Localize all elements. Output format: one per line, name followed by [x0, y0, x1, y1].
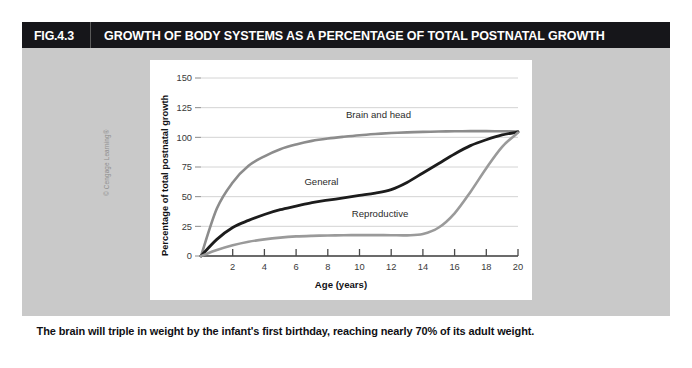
caption-strip: The brain will triple in weight by the i… — [22, 316, 670, 345]
series-label: General — [304, 176, 338, 187]
x-tick-label: 2 — [230, 262, 235, 272]
figure-number: FIG.4.3 — [22, 28, 79, 43]
y-axis-title: Percentage of total postnatal growth — [160, 95, 170, 256]
x-tick-label: 12 — [386, 262, 396, 272]
copyright-credit: © Cengage Learning® — [103, 96, 110, 196]
x-tick-label: 18 — [481, 262, 491, 272]
gridlines-group — [201, 78, 518, 226]
x-tick-label: 6 — [294, 262, 299, 272]
x-tick-label: 8 — [325, 262, 330, 272]
y-tick-label: 125 — [176, 103, 192, 113]
series-lines — [201, 131, 518, 256]
y-tick-label: 0 — [187, 251, 192, 261]
chart-panel: 0255075100125150 2468101214161820 Brain … — [150, 60, 532, 300]
y-axis-ticks: 0255075100125150 — [176, 73, 201, 261]
y-tick-label: 75 — [182, 162, 192, 172]
x-tick-label: 4 — [262, 262, 267, 272]
figure-caption: The brain will triple in weight by the i… — [22, 325, 534, 337]
series-label: Brain and head — [346, 109, 411, 120]
x-axis-title: Age (years) — [315, 279, 367, 290]
figure-header-bar: FIG.4.3 GROWTH OF BODY SYSTEMS AS A PERC… — [22, 22, 670, 48]
growth-line-chart: 0255075100125150 2468101214161820 Brain … — [150, 60, 532, 300]
y-tick-label: 100 — [176, 133, 192, 143]
y-tick-label: 150 — [176, 73, 192, 83]
figure-container: FIG.4.3 GROWTH OF BODY SYSTEMS AS A PERC… — [0, 0, 692, 368]
x-tick-label: 16 — [449, 262, 459, 272]
x-tick-label: 14 — [418, 262, 428, 272]
figure-title: GROWTH OF BODY SYSTEMS AS A PERCENTAGE O… — [91, 28, 605, 43]
x-tick-label: 10 — [354, 262, 364, 272]
series-label: Reproductive — [352, 208, 409, 219]
y-axis-title-wrap: Percentage of total postnatal growth — [154, 60, 178, 300]
x-tick-label: 20 — [513, 262, 523, 272]
y-tick-label: 25 — [182, 222, 192, 232]
y-tick-label: 50 — [182, 192, 192, 202]
